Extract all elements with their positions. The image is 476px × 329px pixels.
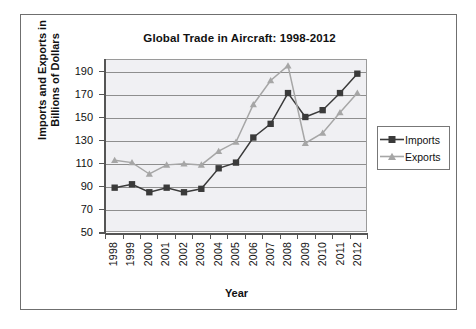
- x-tick-label: 2005: [229, 242, 243, 266]
- y-tick-label: 190: [53, 65, 93, 77]
- data-point: [337, 90, 343, 96]
- legend-entry-imports: Imports: [380, 131, 446, 148]
- data-point: [146, 189, 152, 195]
- x-tick: [350, 234, 351, 239]
- x-tick: [297, 234, 298, 239]
- data-point: [302, 114, 308, 120]
- x-tick-label: 2004: [212, 242, 226, 266]
- data-point: [319, 107, 325, 113]
- y-tick: [99, 232, 104, 234]
- x-tick-label: 2007: [264, 242, 278, 266]
- x-tick-label: 2006: [247, 242, 261, 266]
- y-tick-label: 90: [53, 180, 93, 192]
- x-tick-label: 1998: [107, 242, 121, 266]
- x-tick-label: 2012: [351, 242, 365, 266]
- data-point: [267, 121, 273, 127]
- data-point: [198, 186, 204, 192]
- plot-area: [105, 59, 367, 232]
- data-point: [354, 90, 361, 96]
- chart-title: Global Trade in Aircraft: 1998-2012: [21, 32, 458, 44]
- x-tick: [192, 234, 193, 239]
- y-tick: [99, 186, 104, 188]
- y-axis-line: [104, 59, 106, 234]
- data-point: [129, 181, 135, 187]
- legend-label-imports: Imports: [405, 134, 440, 146]
- legend-entry-exports: Exports: [380, 148, 446, 165]
- legend-key-exports-icon: [380, 151, 404, 162]
- x-tick-label: 2001: [159, 242, 173, 266]
- data-point: [181, 189, 187, 195]
- y-tick: [99, 117, 104, 119]
- x-tick: [157, 234, 158, 239]
- data-point: [302, 140, 309, 146]
- y-tick: [99, 71, 104, 73]
- data-point: [215, 148, 222, 154]
- y-tick-label: 110: [53, 157, 93, 169]
- x-tick-label: 1999: [124, 242, 138, 266]
- data-point: [111, 185, 117, 191]
- series-layer: [106, 60, 366, 231]
- x-tick-label: 2010: [316, 242, 330, 266]
- x-tick: [315, 234, 316, 239]
- x-axis-line: [105, 233, 368, 235]
- data-point: [163, 185, 169, 191]
- x-tick: [210, 234, 211, 239]
- y-tick-label: 130: [53, 134, 93, 146]
- y-tick: [99, 94, 104, 96]
- data-point: [284, 62, 291, 68]
- x-tick-label: 2003: [194, 242, 208, 266]
- x-tick: [140, 234, 141, 239]
- x-tick: [227, 234, 228, 239]
- x-tick-label: 2009: [299, 242, 313, 266]
- x-tick: [262, 234, 263, 239]
- y-tick: [99, 209, 104, 211]
- x-tick: [367, 234, 368, 239]
- x-tick: [280, 234, 281, 239]
- data-point: [233, 159, 239, 165]
- y-tick-label: 150: [53, 111, 93, 123]
- x-tick: [105, 234, 106, 239]
- chart-figure: Global Trade in Aircraft: 1998-2012 Impo…: [20, 14, 457, 310]
- data-point: [146, 170, 153, 176]
- x-tick: [175, 234, 176, 239]
- legend-key-imports-icon: [380, 134, 404, 145]
- x-tick-label: 2011: [334, 242, 348, 265]
- x-tick: [245, 234, 246, 239]
- x-tick-label: 2002: [177, 242, 191, 266]
- y-tick-label: 50: [53, 226, 93, 238]
- y-tick: [99, 163, 104, 165]
- x-tick: [123, 234, 124, 239]
- legend-label-exports: Exports: [405, 151, 441, 163]
- data-point: [250, 134, 256, 140]
- data-point: [232, 139, 239, 145]
- x-axis-title: Year: [105, 287, 368, 299]
- series-line: [115, 66, 358, 174]
- x-tick-label: 2008: [281, 242, 295, 266]
- data-point: [285, 90, 291, 96]
- y-tick: [99, 140, 104, 142]
- y-axis-title-line1: Imports and Exports in: [36, 0, 49, 180]
- data-point: [215, 165, 221, 171]
- y-tick-label: 170: [53, 88, 93, 100]
- x-tick: [332, 234, 333, 239]
- data-point: [354, 71, 360, 77]
- x-tick-label: 2000: [142, 242, 156, 266]
- chart-legend: Imports Exports: [377, 126, 450, 170]
- y-tick-label: 70: [53, 203, 93, 215]
